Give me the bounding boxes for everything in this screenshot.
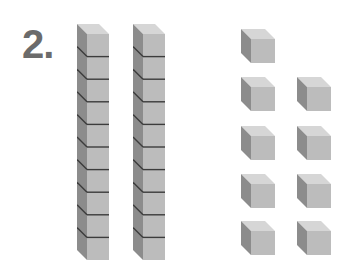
unit-cube-5 [297, 126, 333, 160]
tens-rod-2 [133, 24, 165, 262]
unit-cube-4 [241, 126, 277, 160]
unit-cube-3 [297, 77, 333, 111]
problem-number: 2. [22, 24, 53, 64]
unit-cube-9 [297, 221, 333, 255]
unit-cube-6 [241, 174, 277, 208]
unit-cube-7 [297, 174, 333, 208]
unit-cube-2 [241, 77, 277, 111]
tens-rod-1 [77, 24, 109, 262]
unit-cube-1 [241, 29, 277, 63]
unit-cube-8 [241, 221, 277, 255]
